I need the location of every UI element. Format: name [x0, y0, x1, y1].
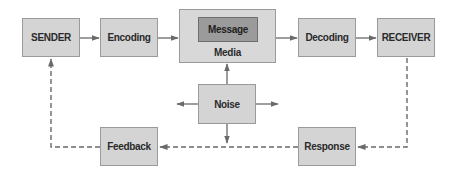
noise-label: Noise [214, 99, 240, 110]
feedback-box: Feedback [100, 127, 158, 166]
sender-label: SENDER [31, 32, 71, 43]
noise-box: Noise [198, 84, 256, 124]
response-label: Response [304, 141, 349, 152]
encoding-label: Encoding [107, 32, 150, 43]
response-box: Response [298, 127, 356, 166]
feedback-label: Feedback [107, 141, 151, 152]
receiver-box: RECEIVER [377, 18, 435, 57]
decoding-label: Decoding [305, 32, 348, 43]
encoding-box: Encoding [100, 18, 158, 57]
dashed-receiver-to-response [358, 58, 407, 147]
message-label: Message [208, 24, 248, 35]
dashed-feedback-to-sender [51, 59, 100, 147]
decoding-box: Decoding [298, 18, 356, 57]
media-label: Media [214, 47, 241, 58]
message-box: Message [198, 17, 258, 42]
receiver-label: RECEIVER [382, 32, 431, 43]
communication-diagram: SENDER Encoding Media Message Decoding R… [0, 0, 462, 181]
sender-box: SENDER [22, 18, 80, 57]
